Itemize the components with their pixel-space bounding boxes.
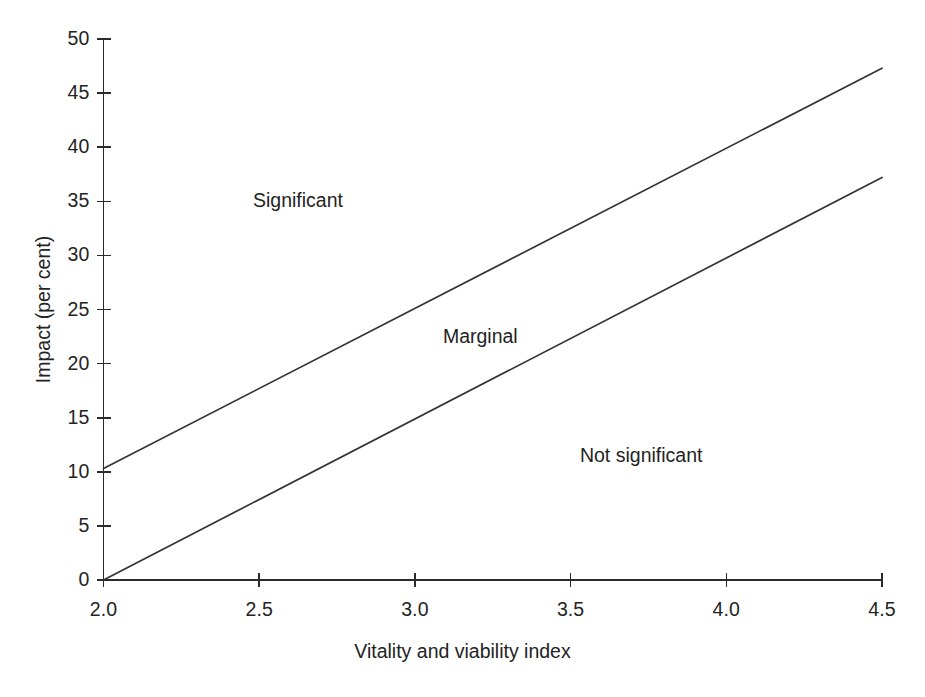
region-label: Marginal (443, 325, 518, 348)
region-label: Not significant (580, 444, 702, 467)
plot-canvas (0, 0, 925, 697)
series-line-upper-boundary (104, 68, 883, 468)
region-label: Significant (253, 189, 343, 212)
x-tick-label: 2.5 (209, 598, 309, 621)
series-line-lower-boundary (104, 178, 883, 581)
x-tick-label: 4.0 (676, 598, 776, 621)
y-axis-title: Impact (per cent) (30, 39, 56, 580)
x-tick-label: 2.0 (54, 598, 154, 621)
x-axis-title: Vitality and viability index (0, 640, 925, 663)
x-tick-label: 3.5 (521, 598, 621, 621)
tick-marks-group (97, 39, 883, 587)
axes-group (104, 39, 884, 581)
x-tick-label: 3.0 (365, 598, 465, 621)
chart-figure: 05101520253035404550 2.02.53.03.54.04.5 … (0, 0, 925, 697)
x-tick-label: 4.5 (832, 598, 925, 621)
